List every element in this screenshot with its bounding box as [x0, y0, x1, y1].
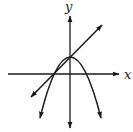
y-axis-label: y: [64, 0, 73, 14]
x-axis-label: x: [124, 67, 132, 82]
coordinate-graph: x y: [0, 0, 133, 132]
